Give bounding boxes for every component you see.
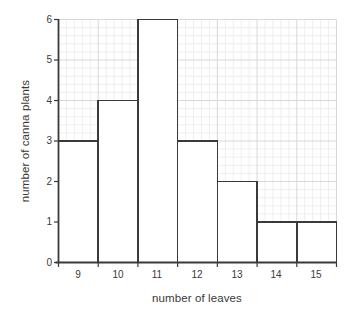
histogram-bar: [98, 101, 138, 263]
histogram-bar: [217, 182, 257, 263]
histogram-bar: [178, 141, 218, 263]
plot-area: [0, 0, 355, 318]
histogram-chart: number of canna plants 6 5 4 3 2 1 0 9 1…: [0, 0, 355, 318]
histogram-bar: [257, 222, 297, 263]
histogram-bar: [138, 20, 178, 263]
histogram-bar: [59, 141, 99, 263]
histogram-bar: [297, 222, 337, 263]
